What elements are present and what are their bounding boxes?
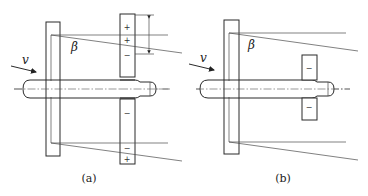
caption: (b) (275, 172, 291, 185)
velocity-label: v (200, 51, 207, 65)
sign: + (124, 36, 131, 45)
angle-label: β (247, 38, 255, 52)
sign: − (124, 51, 131, 60)
sign: − (124, 109, 131, 118)
sign: − (306, 103, 313, 112)
sign: − (124, 144, 131, 153)
figure: + + − − − + v β (a) − − v β (b) (0, 0, 368, 196)
panel-b: − − v β (b) (189, 20, 358, 185)
velocity-label: v (22, 53, 29, 67)
sign: + (124, 155, 131, 164)
caption: (a) (81, 172, 96, 185)
panel-a: + + − − − + v β (a) (11, 14, 182, 185)
sign: − (306, 64, 313, 73)
sign: + (124, 23, 131, 32)
angle-label: β (70, 40, 78, 54)
